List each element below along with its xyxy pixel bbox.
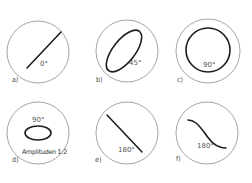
panel-label: f) — [176, 155, 181, 163]
screen-circle — [96, 102, 158, 164]
phase-label: 0° — [40, 60, 48, 68]
panel-c: 90° c) — [176, 19, 240, 84]
screen-circle — [7, 21, 69, 83]
panel-label: e) — [95, 156, 101, 164]
screen-circle — [176, 102, 238, 164]
panel-f: 180° f) — [176, 102, 238, 164]
amplitude-note: Amplituden 1:2 — [22, 148, 67, 156]
phase-label: 45° — [129, 59, 141, 67]
trace-ellipse-90deg — [25, 126, 51, 140]
panel-label: b) — [96, 76, 102, 84]
panel-label: d) — [12, 156, 18, 164]
panel-a: 0° a) — [7, 21, 69, 84]
phase-label: 180° — [118, 146, 135, 154]
panel-label: c) — [177, 76, 183, 84]
phase-label: 90° — [203, 61, 215, 69]
panel-b: 45° b) — [96, 20, 158, 84]
panel-label: a) — [12, 76, 18, 84]
phase-label: 180° — [197, 142, 214, 150]
trace-ellipse-45deg — [100, 25, 148, 78]
panel-d: 90° Amplituden 1:2 d) — [7, 102, 69, 164]
lissajous-diagram: 0° a) 45° b) 90° c) 90° Amplituden 1:2 d… — [0, 0, 252, 183]
panel-e: 180° e) — [95, 102, 158, 164]
phase-label: 90° — [32, 116, 44, 124]
screen-circle — [96, 20, 158, 82]
